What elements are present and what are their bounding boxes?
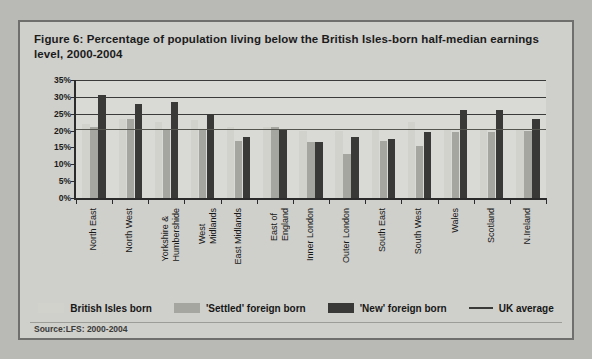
legend-color-swatch [328, 303, 354, 313]
x-axis-tick [112, 198, 113, 204]
bar [279, 129, 286, 198]
legend-item: 'Settled' foreign born [174, 303, 306, 314]
bar [299, 131, 306, 198]
y-axis-tick-label: 35% [54, 75, 71, 85]
bar-group: Yorkshire & Humbershide [148, 80, 184, 198]
y-axis-tick-label: 0% [59, 193, 71, 203]
legend-color-swatch [174, 303, 200, 313]
chart-container: 0%5%10%15%20%25%30%35%North EastNorth We… [34, 74, 558, 314]
x-axis-tick [510, 198, 511, 204]
bar [388, 139, 395, 198]
bar-group: North West [112, 80, 148, 198]
x-axis-category-label: Outer London [341, 208, 352, 263]
chart-legend: British Isles born'Settled' foreign born… [34, 298, 558, 318]
y-axis-tick-label: 25% [54, 109, 71, 119]
x-axis-category-label: Wales [450, 208, 461, 233]
bar-group: Scotland [474, 80, 510, 198]
bar-group: Wales [438, 80, 474, 198]
legend-color-swatch [38, 303, 64, 313]
bar [496, 110, 503, 198]
y-axis-tick-label: 30% [54, 92, 71, 102]
bar [372, 129, 379, 198]
bar-group: Outer London [329, 80, 365, 198]
bar [98, 95, 105, 198]
bar [488, 132, 495, 198]
x-axis-tick [257, 198, 258, 204]
y-axis-tick-label: 10% [54, 159, 71, 169]
bar [380, 141, 387, 198]
bar [315, 142, 322, 198]
bar [444, 129, 451, 198]
bar [532, 119, 539, 198]
bar [235, 141, 242, 198]
x-axis-tick [474, 198, 475, 204]
bar [155, 122, 162, 198]
legend-label: 'New' foreign born [360, 303, 447, 314]
x-axis-category-label: N.Ireland [522, 208, 533, 245]
x-axis-tick [438, 198, 439, 204]
x-axis-category-label: Inner London [305, 208, 316, 261]
figure-title: Figure 6: Percentage of population livin… [34, 32, 554, 62]
x-axis-category-label: Yorkshire & Humbershide [160, 208, 182, 262]
bar-group: West Midlands [184, 80, 220, 198]
bar [191, 120, 198, 198]
x-axis-category-label: North East [88, 208, 99, 251]
bar [271, 127, 278, 198]
x-axis-tick [329, 198, 330, 204]
legend-label: 'Settled' foreign born [206, 303, 306, 314]
legend-item: UK average [469, 303, 554, 314]
x-axis-tick [546, 198, 547, 204]
bar [335, 131, 342, 198]
bar [424, 132, 431, 198]
x-axis-tick [293, 198, 294, 204]
x-axis-category-label: North West [124, 208, 135, 253]
bar-group: East of England [257, 80, 293, 198]
bar-group: North East [76, 80, 112, 198]
bar [351, 137, 358, 198]
x-axis-category-label: Scotland [486, 208, 497, 243]
x-axis-category-label: East Midlands [233, 208, 244, 265]
bar [207, 114, 214, 198]
bar-group: East Midlands [221, 80, 257, 198]
x-axis-tick [184, 198, 185, 204]
bar [119, 119, 126, 198]
y-axis-tick-label: 20% [54, 126, 71, 136]
legend-label: UK average [499, 303, 554, 314]
bar [343, 154, 350, 198]
x-axis-tick [221, 198, 222, 204]
x-axis-tick [401, 198, 402, 204]
uk-average-reference-line [76, 129, 546, 130]
x-axis-tick [148, 198, 149, 204]
y-axis-tick-label: 5% [59, 176, 71, 186]
bar-group: Inner London [293, 80, 329, 198]
legend-label: British Isles born [70, 303, 152, 314]
x-axis-category-label: East of England [269, 208, 291, 241]
bar [199, 129, 206, 198]
x-axis-category-label: West Midlands [197, 208, 219, 244]
x-axis-tick [365, 198, 366, 204]
bar-group: South East [365, 80, 401, 198]
bar [307, 142, 314, 198]
bar-group: South West [401, 80, 437, 198]
x-axis-category-label: South West [413, 208, 424, 254]
screenshot-root: Figure 6: Percentage of population livin… [0, 0, 592, 359]
bar [135, 104, 142, 198]
bar [460, 110, 467, 198]
legend-line-swatch [469, 307, 493, 309]
legend-item: British Isles born [38, 303, 152, 314]
plot-area: 0%5%10%15%20%25%30%35%North EastNorth We… [74, 80, 546, 200]
bar [243, 137, 250, 198]
bar [90, 127, 97, 198]
bar [227, 127, 234, 198]
bar [480, 129, 487, 198]
bar [524, 131, 531, 198]
legend-item: 'New' foreign born [328, 303, 447, 314]
x-axis-tick [76, 198, 77, 204]
bar [263, 127, 270, 198]
bar-group: N.Ireland [510, 80, 546, 198]
source-note: Source:LFS: 2000-2004 [34, 324, 128, 334]
bar [82, 124, 89, 198]
bar [416, 146, 423, 198]
x-axis-category-label: South East [377, 208, 388, 252]
y-axis-tick-label: 15% [54, 142, 71, 152]
